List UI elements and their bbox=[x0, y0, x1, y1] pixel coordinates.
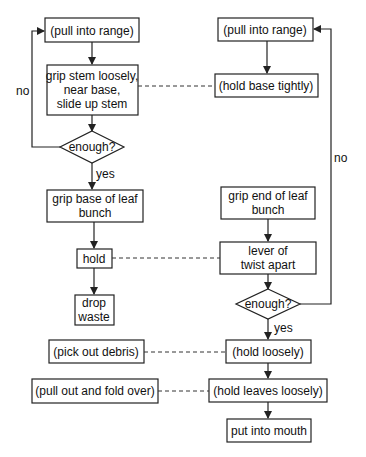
hold-base-tightly-node: (hold base tightly) bbox=[215, 74, 318, 97]
grip-stem-label-2: near base, bbox=[64, 83, 121, 97]
drop-waste-label-2: waste bbox=[77, 310, 110, 324]
hold-leaves-loosely-label: (hold leaves loosely) bbox=[213, 384, 322, 398]
grip-base-label-2: bunch bbox=[79, 206, 112, 220]
flowchart: (pull into range) grip stem loosely, nea… bbox=[0, 0, 366, 457]
lever-twist-label-1: lever of bbox=[248, 244, 288, 258]
hold-loosely-label: (hold loosely) bbox=[232, 345, 303, 359]
grip-stem-node: grip stem loosely, near base, slide up s… bbox=[46, 65, 138, 115]
hold-base-tightly-label: (hold base tightly) bbox=[219, 79, 314, 93]
pull-out-fold-over-node: (pull out and fold over) bbox=[32, 379, 158, 403]
pick-out-debris-label: (pick out debris) bbox=[53, 345, 138, 359]
drop-waste-label-1: drop bbox=[82, 296, 106, 310]
left-enough-label: enough? bbox=[69, 140, 116, 154]
right-no-label: no bbox=[334, 151, 348, 165]
right-enough-decision: enough? bbox=[236, 289, 300, 319]
lever-twist-node: lever of twist apart bbox=[220, 242, 316, 274]
grip-end-label-1: grip end of leaf bbox=[228, 189, 308, 203]
grip-base-label-1: grip base of leaf bbox=[52, 192, 138, 206]
pull-out-fold-over-label: (pull out and fold over) bbox=[35, 384, 154, 398]
hold-loosely-node: (hold loosely) bbox=[226, 340, 311, 363]
hold-leaves-loosely-node: (hold leaves loosely) bbox=[209, 379, 327, 402]
grip-stem-label-3: slide up stem bbox=[57, 97, 128, 111]
put-into-mouth-label: put into mouth bbox=[231, 424, 307, 438]
grip-end-label-2: bunch bbox=[252, 203, 285, 217]
lever-twist-label-2: twist apart bbox=[241, 258, 296, 272]
put-into-mouth-node: put into mouth bbox=[227, 419, 311, 442]
pick-out-debris-node: (pick out debris) bbox=[49, 340, 144, 363]
hold-label: hold bbox=[83, 252, 106, 266]
left-yes-label: yes bbox=[96, 167, 115, 181]
hold-node: hold bbox=[77, 249, 112, 268]
right-pull-into-range-label: (pull into range) bbox=[223, 23, 306, 37]
grip-stem-label-1: grip stem loosely, bbox=[46, 69, 138, 83]
left-pull-into-range-node: (pull into range) bbox=[45, 18, 139, 42]
drop-waste-node: drop waste bbox=[75, 295, 114, 325]
grip-base-node: grip base of leaf bunch bbox=[47, 190, 143, 222]
right-enough-label: enough? bbox=[245, 297, 292, 311]
left-pull-into-range-label: (pull into range) bbox=[50, 24, 133, 38]
grip-end-node: grip end of leaf bunch bbox=[221, 187, 315, 219]
right-yes-label: yes bbox=[274, 321, 293, 335]
left-enough-decision: enough? bbox=[60, 131, 124, 163]
right-pull-into-range-node: (pull into range) bbox=[218, 18, 313, 41]
left-no-label: no bbox=[16, 84, 30, 98]
